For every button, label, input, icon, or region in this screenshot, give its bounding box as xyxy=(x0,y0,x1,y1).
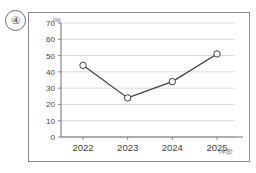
data-point-marker xyxy=(124,95,130,101)
y-axis-tick-label: 10 xyxy=(46,117,55,126)
y-axis-tick-label: 20 xyxy=(46,100,55,109)
item-number-badge: ④ xyxy=(5,10,26,31)
y-axis-tick-label: 0 xyxy=(51,133,56,142)
y-axis-tick-labels: 010203040506070 xyxy=(46,19,55,142)
x-axis-tick-label: 2023 xyxy=(117,142,138,153)
y-axis-unit-label: (%) xyxy=(53,17,61,23)
data-point-markers xyxy=(80,51,220,101)
y-axis-tick-label: 40 xyxy=(46,68,55,77)
x-axis-unit-label: (年度) xyxy=(219,148,233,155)
y-axis-tick-label: 30 xyxy=(46,84,55,93)
gridlines-group xyxy=(61,23,235,137)
x-axis-tick-label: 2022 xyxy=(72,142,93,153)
data-point-marker xyxy=(169,78,175,84)
data-point-marker xyxy=(214,51,220,57)
data-series-line xyxy=(83,54,217,98)
data-point-marker xyxy=(80,62,86,68)
y-axis-tick-label: 60 xyxy=(46,35,55,44)
x-axis-tick-labels: 2022202320242025 xyxy=(72,142,227,153)
line-chart: 010203040506070 2022202320242025 (%) (年度… xyxy=(29,13,249,161)
figure-root: ④ 010203040506070 2022202320242025 (%) (… xyxy=(0,0,256,173)
chart-frame: 010203040506070 2022202320242025 (%) (年度… xyxy=(28,12,250,162)
y-axis-tick-label: 50 xyxy=(46,52,55,61)
x-axis-tick-label: 2024 xyxy=(162,142,183,153)
